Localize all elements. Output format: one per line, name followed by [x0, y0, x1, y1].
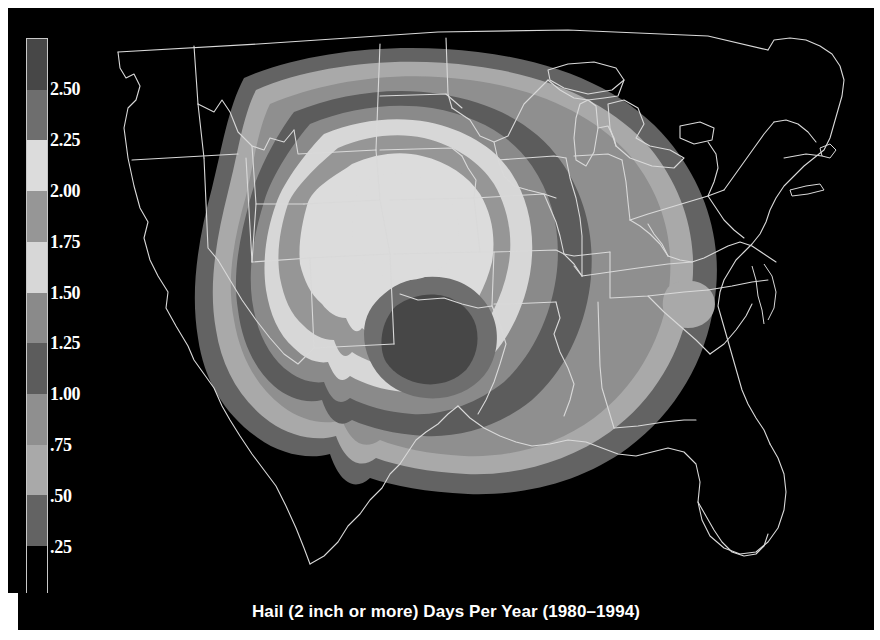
colorbar-tick-1p75: 1.75: [50, 233, 80, 251]
colorbar: [26, 38, 48, 593]
colorbar-band-6: [27, 343, 47, 394]
colorbar-tick-2p00: 2.00: [50, 182, 80, 200]
colorbar-band-2: [27, 140, 47, 191]
colorbar-tick-1p25: 1.25: [50, 334, 80, 352]
colorbar-tick-2p50: 2.50: [50, 80, 80, 98]
colorbar-tick-1p00: 1.00: [50, 385, 80, 403]
colorbar-tick-p75: .75: [50, 436, 72, 454]
colorbar-tick-p25: .25: [50, 538, 72, 556]
colorbar-band-4: [27, 242, 47, 293]
colorbar-band-3: [27, 191, 47, 242]
colorbar-band-7: [27, 394, 47, 445]
colorbar-tick-p50: .50: [50, 487, 72, 505]
colorbar-band-0: [27, 39, 47, 90]
us-hail-contour-map: [8, 8, 874, 593]
figure-title-band: Hail (2 inch or more) Days Per Year (198…: [18, 593, 874, 630]
colorbar-band-8: [27, 445, 47, 496]
contour-band-2p50-max: [381, 294, 477, 384]
colorbar-band-9: [27, 495, 47, 546]
colorbar-band-5: [27, 293, 47, 344]
colorbar-tick-labels: 2.502.252.001.751.501.251.00.75.50.25: [50, 38, 110, 593]
figure-title: Hail (2 inch or more) Days Per Year (198…: [252, 602, 640, 622]
contour-fill-group: [195, 48, 717, 494]
contour-lobe-appalachia: [663, 281, 715, 328]
colorbar-tick-2p25: 2.25: [50, 131, 80, 149]
hail-climatology-figure: 2.502.252.001.751.501.251.00.75.50.25 Ha…: [0, 0, 880, 640]
colorbar-band-1: [27, 90, 47, 141]
map-panel: 2.502.252.001.751.501.251.00.75.50.25: [8, 8, 874, 593]
colorbar-tick-1p50: 1.50: [50, 284, 80, 302]
colorbar-band-10: [27, 546, 47, 593]
